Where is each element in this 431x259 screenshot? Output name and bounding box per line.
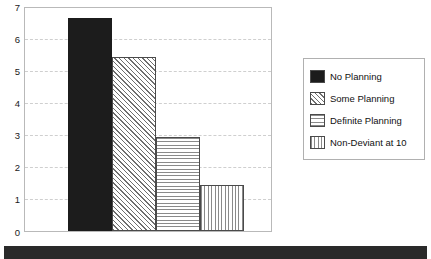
y-tick-label: 0 [15, 226, 20, 237]
y-tick-label: 2 [15, 162, 20, 173]
legend-item-some-planning[interactable]: Some Planning [310, 87, 419, 109]
bar-definite-planning[interactable] [156, 137, 200, 231]
bar-no-planning[interactable] [68, 18, 112, 232]
y-tick-label: 4 [15, 98, 20, 109]
legend-swatch-diagonal-icon [310, 92, 325, 105]
y-tick-label: 1 [15, 194, 20, 205]
legend-swatch-vertical-icon [310, 136, 325, 149]
bar-chart-figure: Mean No. of Severe Difficulties 7 6 5 4 … [0, 0, 431, 259]
bar-non-deviant-at-10[interactable] [200, 185, 244, 231]
legend-item-non-deviant-at-10[interactable]: Non-Deviant at 10 [310, 131, 419, 153]
y-tick-label: 7 [15, 2, 20, 13]
y-tick-label: 5 [15, 66, 20, 77]
y-tick-label: 6 [15, 34, 20, 45]
plot-inner [25, 8, 271, 231]
legend-swatch-solid-icon [310, 70, 325, 83]
bar-some-planning[interactable] [112, 57, 156, 231]
legend-label: Definite Planning [330, 115, 402, 126]
bottom-black-band [4, 246, 427, 259]
plot-area [24, 7, 272, 232]
legend-label: No Planning [330, 71, 382, 82]
y-tick-label: 3 [15, 130, 20, 141]
legend-label: Some Planning [330, 93, 394, 104]
legend-item-no-planning[interactable]: No Planning [310, 65, 419, 87]
bar-group [68, 8, 244, 231]
legend-item-definite-planning[interactable]: Definite Planning [310, 109, 419, 131]
legend-swatch-horizontal-icon [310, 114, 325, 127]
legend-label: Non-Deviant at 10 [330, 137, 407, 148]
legend: No Planning Some Planning Definite Plann… [303, 58, 425, 160]
